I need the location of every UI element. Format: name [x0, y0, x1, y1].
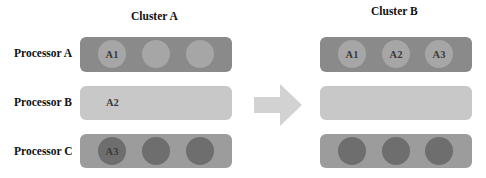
cluster-b-slot-empty [382, 137, 410, 165]
cluster-a-slot-a1: A1 [98, 40, 126, 68]
processor-c-label: Processor C [14, 145, 73, 157]
right-arrow-icon [254, 84, 302, 126]
cluster-b-processor-b-bar [320, 86, 472, 120]
cluster-b-slot-empty [425, 137, 453, 165]
cluster-a-slot-empty [142, 137, 170, 165]
cluster-b-slot-empty [338, 137, 366, 165]
processor-b-label: Processor B [14, 96, 72, 108]
cluster-b-slot-a3: A3 [425, 40, 453, 68]
cluster-a-slot-empty [186, 40, 214, 68]
cluster-a-slot-a2: A2 [106, 97, 119, 108]
cluster-a-processor-b-bar [80, 86, 232, 120]
cluster-a-title: Cluster A [131, 10, 178, 22]
cluster-b-slot-a2: A2 [382, 40, 410, 68]
cluster-a-slot-empty [186, 137, 214, 165]
cluster-a-slot-empty [142, 40, 170, 68]
cluster-b-slot-a1: A1 [338, 40, 366, 68]
cluster-a-slot-a3: A3 [98, 137, 126, 165]
processor-a-label: Processor A [14, 47, 72, 59]
cluster-b-title: Cluster B [371, 5, 418, 17]
